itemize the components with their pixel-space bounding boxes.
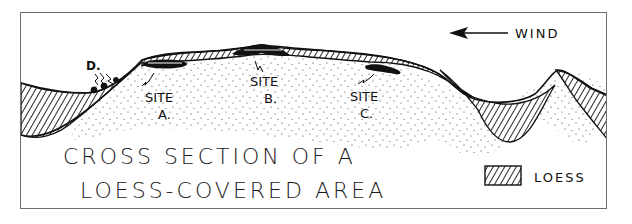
wind-arrow-icon	[449, 27, 508, 39]
site-b-label: SITE	[250, 74, 278, 89]
wind-label: WIND	[515, 26, 559, 41]
site-a-label: SITE	[145, 90, 173, 105]
legend-loess-label: LOESS	[534, 170, 586, 185]
loess-cross-section-diagram: D. SITE A. SITE B. SITE C. WIND CROSS SE…	[0, 0, 632, 224]
marker-d-label: D.	[86, 59, 101, 73]
site-a-letter: A.	[158, 107, 171, 122]
legend-loess-swatch	[485, 166, 521, 185]
title-line-2: LOESS-COVERED AREA	[80, 178, 386, 203]
title-line-1: CROSS SECTION OF A	[63, 144, 356, 169]
site-b-letter: B.	[264, 91, 277, 106]
site-c-label: SITE	[350, 89, 378, 104]
site-c-letter: C.	[360, 106, 373, 121]
site-a-deposit	[143, 60, 187, 69]
